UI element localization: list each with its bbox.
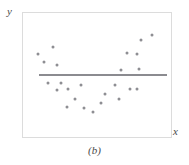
x-axis-label: x (173, 126, 178, 137)
data-point (60, 81, 63, 84)
figure-caption: (b) (0, 144, 189, 156)
data-point (46, 81, 49, 84)
data-point (135, 53, 138, 56)
data-point (117, 97, 120, 100)
data-point (83, 107, 86, 110)
data-point (138, 68, 141, 71)
data-point (151, 33, 154, 36)
data-point (119, 69, 122, 72)
data-point (51, 46, 54, 49)
data-point (92, 111, 95, 114)
scatter-plot-figure: y x (b) (0, 0, 189, 165)
data-point (36, 53, 39, 56)
plot-area (23, 13, 171, 137)
data-point (140, 38, 143, 41)
data-point (99, 101, 102, 104)
plot-frame (22, 12, 172, 138)
data-point (113, 83, 116, 86)
data-point (80, 83, 83, 86)
data-point (42, 61, 45, 64)
y-axis-label: y (7, 6, 12, 17)
data-point (74, 97, 77, 100)
data-point (128, 87, 131, 90)
data-point (55, 88, 58, 91)
data-point (56, 64, 59, 67)
data-point (67, 87, 70, 90)
fitted-regression-line (39, 74, 167, 76)
data-point (135, 87, 138, 90)
data-point (103, 92, 106, 95)
data-point (125, 52, 128, 55)
data-point (66, 106, 69, 109)
